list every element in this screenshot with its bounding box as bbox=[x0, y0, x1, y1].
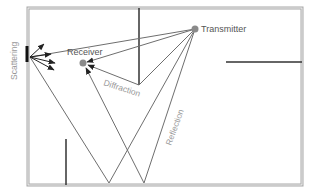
diffraction-label: Diffraction bbox=[102, 77, 142, 98]
transmitter-label: Transmitter bbox=[201, 24, 246, 34]
receiver-label: Receiver bbox=[67, 47, 103, 57]
propagation-diagram: Transmitter Receiver Diffraction Reflect… bbox=[0, 0, 314, 193]
scattering-label: Scattering bbox=[9, 41, 19, 80]
ray-scatter-to-floor bbox=[30, 57, 109, 183]
scatter-arrows bbox=[30, 44, 55, 70]
receiver-node bbox=[80, 60, 87, 67]
rays bbox=[30, 29, 195, 183]
ray-scatter-in bbox=[30, 29, 195, 57]
transmitter-node bbox=[192, 26, 199, 33]
